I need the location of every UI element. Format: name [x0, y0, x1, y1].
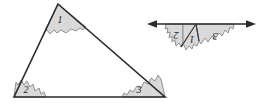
right-arrowhead	[246, 20, 256, 28]
rearranged-angle-3-label: 3	[213, 31, 219, 42]
triangle-group: 1 2 3	[14, 4, 165, 97]
angle-2-label: 2	[24, 84, 29, 95]
angle-3-label: 3	[136, 84, 142, 95]
angle-1-label: 1	[58, 14, 63, 25]
rearranged-angle-1-label: 1	[190, 34, 195, 45]
straight-line-group: 2 1 3	[147, 20, 256, 50]
geometry-figure: 1 2 3 2 1	[0, 0, 261, 104]
left-arrowhead	[147, 20, 157, 28]
triangle-outline	[14, 4, 165, 97]
rearranged-angle-2-label: 2	[174, 30, 179, 41]
figure-canvas: 1 2 3 2 1	[0, 0, 261, 104]
